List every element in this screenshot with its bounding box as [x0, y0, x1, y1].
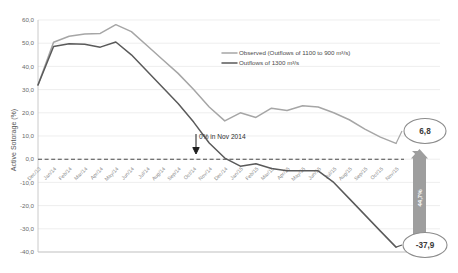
outflow-endpoint-callout: -37,9	[403, 233, 447, 258]
x-tick-label: Sep/14	[166, 166, 182, 182]
difference-indicator: 44,7%	[411, 149, 428, 240]
x-tick-label: Feb/14	[57, 166, 73, 182]
difference-arrow-head-top	[411, 149, 428, 159]
x-tick-label: Feb/15	[244, 166, 260, 182]
x-tick-label: May/14	[103, 166, 119, 182]
zero-crossing-annotation: 0% in Nov 2014	[193, 133, 246, 154]
x-tick-label: Jan/14	[42, 166, 57, 181]
y-tick-label: 60,0	[22, 16, 35, 23]
y-tick-label: 10,0	[22, 132, 35, 139]
zero-crossing-label: 0% in Nov 2014	[199, 133, 246, 140]
chart-legend: Observed (Outflows of 1100 to 900 m³/s) …	[222, 49, 350, 66]
callout-connector	[396, 131, 402, 143]
y-tick-label: -30,0	[20, 225, 35, 232]
y-tick-label: 0,0	[25, 155, 34, 162]
x-tick-label: Apr/15	[276, 166, 291, 181]
y-tick-label: 50,0	[22, 39, 35, 46]
x-tick-label: Aug/15	[337, 166, 353, 182]
series-line-observed	[38, 25, 396, 144]
x-tick-label: Sep/15	[353, 166, 369, 182]
x-tick-label: Jul/14	[137, 166, 151, 180]
x-tick-label: Oct/14	[182, 166, 197, 181]
y-tick-label: 20,0	[22, 109, 35, 116]
x-tick-label: Nov/14	[197, 166, 213, 182]
x-tick-label: Aug/14	[150, 166, 166, 182]
x-tick-label: Oct/15	[369, 166, 384, 181]
x-tick-labels-group: Dec/13Jan/14Feb/14Mar/14Apr/14May/14Jun/…	[26, 166, 400, 182]
x-tick-label: May/15	[290, 166, 306, 182]
x-tick-label: Nov/15	[384, 166, 400, 182]
chart-container: 60,050,040,030,020,010,00,0-10,0-20,0-30…	[0, 0, 458, 273]
y-tick-label: -20,0	[20, 202, 35, 209]
callout-connector	[396, 245, 402, 247]
x-tick-label: Jun/14	[120, 166, 135, 181]
x-tick-label: Dec/14	[213, 166, 229, 182]
y-axis-title: Active Sotorage (%)	[10, 109, 18, 171]
x-tick-label: Jul/15	[323, 166, 337, 180]
difference-value-label: 44,7%	[417, 189, 423, 207]
zero-crossing-arrow-head	[193, 148, 199, 155]
y-tick-label: 30,0	[22, 86, 35, 93]
observed-endpoint-callout: 6,8	[404, 119, 446, 144]
legend-label-outflow: Outflows of 1300 m³/s	[239, 59, 299, 66]
y-tick-label: 40,0	[22, 63, 35, 70]
series-line-outflow	[38, 42, 396, 247]
x-tick-label: Jan/15	[229, 166, 244, 181]
outflow-callout-value: -37,9	[416, 241, 435, 250]
observed-callout-value: 6,8	[419, 127, 431, 136]
x-tick-label: Apr/14	[89, 166, 104, 181]
y-tick-labels-group: 60,050,040,030,020,010,00,0-10,0-20,0-30…	[20, 16, 35, 255]
x-tick-label: Mar/14	[73, 166, 89, 182]
legend-label-observed: Observed (Outflows of 1100 to 900 m³/s)	[239, 49, 350, 56]
y-tick-label: -40,0	[20, 248, 35, 255]
x-tick-label: Jun/15	[307, 166, 322, 181]
line-chart: 60,050,040,030,020,010,00,0-10,0-20,0-30…	[0, 0, 458, 273]
